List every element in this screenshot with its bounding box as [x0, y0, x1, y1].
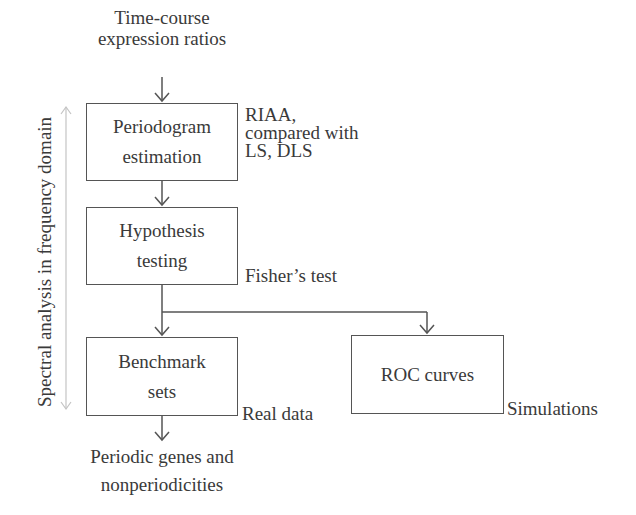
side-double-arrow [61, 107, 71, 409]
box-label-1: Hypothesis [119, 216, 205, 246]
periodogram-box: Periodogram estimation [86, 103, 238, 181]
output-line1: Periodic genes and [62, 443, 262, 471]
benchmark-annotation: Real data [242, 403, 313, 424]
hypothesis-annotation: Fisher’s test [245, 265, 337, 286]
box-label-2: sets [148, 377, 177, 407]
annotation-line: LS, DLS [245, 142, 358, 160]
input-label: Time-course expression ratios [62, 7, 262, 49]
box-label-1: Benchmark [118, 347, 206, 377]
box-label-2: testing [137, 246, 188, 276]
roc-annotation: Simulations [507, 398, 598, 419]
box-label-1: ROC curves [381, 360, 474, 390]
output-line2: nonperiodicities [62, 471, 262, 499]
input-line2: expression ratios [62, 28, 262, 49]
box-label-2: estimation [122, 142, 201, 172]
periodogram-annotation: RIAA, compared with LS, DLS [245, 106, 358, 160]
input-line1: Time-course [62, 7, 262, 28]
box-label-1: Periodogram [113, 112, 211, 142]
roc-box: ROC curves [351, 335, 504, 414]
output-label: Periodic genes and nonperiodicities [62, 443, 262, 499]
side-label: Spectral analysis in frequency domain [34, 92, 56, 432]
hypothesis-box: Hypothesis testing [86, 207, 238, 285]
benchmark-box: Benchmark sets [86, 337, 238, 416]
